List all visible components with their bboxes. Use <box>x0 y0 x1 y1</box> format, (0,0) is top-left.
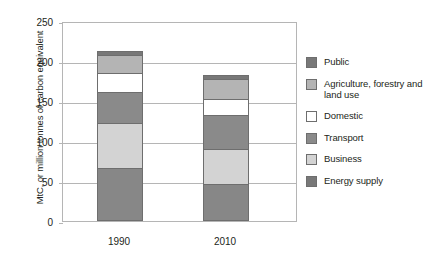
legend-label: Public <box>324 56 349 68</box>
legend-item: Energy supply <box>306 175 431 187</box>
bar-segment <box>203 75 249 78</box>
legend-swatch <box>306 79 317 90</box>
legend-swatch <box>306 57 317 68</box>
y-axis-tick-label: 100 <box>0 137 53 148</box>
legend-label: Business <box>324 153 362 165</box>
bar-segment <box>97 73 143 92</box>
legend: PublicAgriculture, forestry and land use… <box>306 56 431 196</box>
bar-segment <box>203 99 249 116</box>
y-axis-tick-label: 250 <box>0 17 53 28</box>
bar-segment <box>97 168 143 221</box>
legend-swatch <box>306 154 317 165</box>
y-axis-tick-mark <box>59 103 63 104</box>
legend-swatch <box>306 111 317 122</box>
bar-segment <box>97 92 143 123</box>
bar-1990 <box>97 21 143 221</box>
legend-item: Business <box>306 153 431 165</box>
legend-item: Public <box>306 56 431 68</box>
bar-segment <box>203 79 249 99</box>
legend-label: Domestic <box>324 110 363 122</box>
legend-item: Agriculture, forestry and land use <box>306 78 431 101</box>
y-axis-tick-mark <box>59 143 63 144</box>
y-axis-tick-mark <box>59 23 63 24</box>
y-axis-tick-mark <box>59 63 63 64</box>
y-axis-tick-mark <box>59 183 63 184</box>
legend-label: Agriculture, forestry and land use <box>324 78 431 101</box>
y-axis-tick-label: 200 <box>0 57 53 68</box>
bar-segment <box>203 115 249 149</box>
stacked-bar-chart: MtC, or million tonnes of carbon equival… <box>0 0 431 262</box>
y-axis-title: MtC, or million tonnes of carbon equival… <box>34 18 45 218</box>
bar-2010 <box>203 21 249 221</box>
legend-item: Transport <box>306 132 431 144</box>
bar-segment <box>203 149 249 184</box>
y-axis-tick-label: 50 <box>0 177 53 188</box>
y-axis-tick-label: 150 <box>0 97 53 108</box>
legend-label: Energy supply <box>324 175 383 187</box>
y-axis-tick-label: 0 <box>0 217 53 228</box>
legend-swatch <box>306 176 317 187</box>
plot-area <box>62 22 297 222</box>
x-axis-tick-label: 2010 <box>214 236 236 247</box>
legend-swatch <box>306 133 317 144</box>
bar-segment <box>203 184 249 221</box>
y-axis-tick-mark <box>59 223 63 224</box>
bar-segment <box>97 123 143 168</box>
bar-segment <box>97 51 143 54</box>
legend-label: Transport <box>324 132 363 144</box>
legend-item: Domestic <box>306 110 431 122</box>
x-axis-tick-label: 1990 <box>108 236 130 247</box>
bar-segment <box>97 55 143 73</box>
